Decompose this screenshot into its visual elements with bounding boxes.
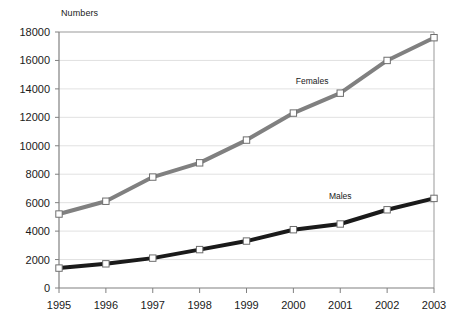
data-point-marker-females-2001	[337, 90, 343, 96]
data-point-marker-males-2001	[337, 221, 343, 227]
data-point-marker-females-1995	[56, 211, 62, 217]
data-point-marker-males-1995	[56, 265, 62, 271]
series-line-males	[59, 198, 434, 268]
data-point-marker-females-1998	[196, 160, 202, 166]
series-line-females	[59, 38, 434, 214]
data-point-marker-males-1997	[150, 255, 156, 261]
data-point-marker-males-1998	[196, 246, 202, 252]
data-point-marker-males-1999	[243, 238, 249, 244]
data-point-marker-males-2000	[290, 226, 296, 232]
data-point-marker-males-1996	[103, 261, 109, 267]
data-point-marker-females-2002	[384, 57, 390, 63]
series-label-males: Males	[329, 191, 352, 201]
data-point-marker-females-1997	[150, 174, 156, 180]
plot-area	[0, 0, 461, 333]
series-label-females: Females	[296, 76, 329, 86]
data-point-marker-females-2003	[431, 34, 437, 40]
grid-lines	[59, 60, 434, 259]
data-point-marker-males-2003	[431, 195, 437, 201]
data-point-marker-females-1996	[103, 198, 109, 204]
data-point-marker-males-2002	[384, 207, 390, 213]
data-point-marker-females-1999	[243, 137, 249, 143]
data-point-marker-females-2000	[290, 110, 296, 116]
line-chart: Numbers 18000160001400012000100008000600…	[0, 0, 461, 333]
